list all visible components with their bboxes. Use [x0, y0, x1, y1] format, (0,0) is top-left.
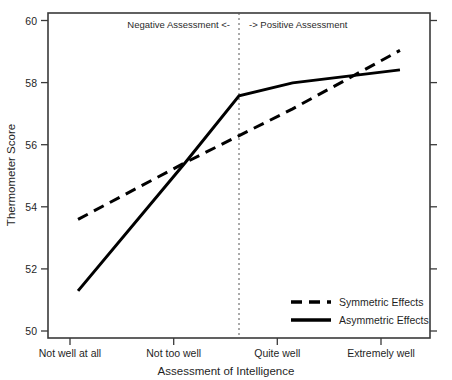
x-tick-label-2: Quite well	[254, 347, 300, 359]
x-axis-title: Assessment of Intelligence	[158, 365, 295, 377]
x-axis-category-labels: Not well at all Not too well Quite well …	[39, 347, 415, 359]
y-axis-ticks-left	[41, 21, 48, 332]
y-tick-label-60: 60	[25, 15, 37, 27]
x-tick-label-0: Not well at all	[39, 347, 101, 359]
y-axis-tick-labels: 60 58 56 54 52 50	[25, 15, 37, 338]
line-chart-canvas: 60 58 56 54 52 50 Thermometer Score Not …	[0, 0, 452, 380]
negative-assessment-label: Negative Assessment <-	[127, 19, 230, 30]
y-tick-label-58: 58	[25, 77, 37, 89]
y-tick-label-56: 56	[25, 139, 37, 151]
chart-figure: 60 58 56 54 52 50 Thermometer Score Not …	[0, 0, 452, 380]
y-tick-label-52: 52	[25, 263, 37, 275]
positive-assessment-label: -> Positive Assessment	[249, 19, 348, 30]
x-tick-label-3: Extremely well	[347, 347, 415, 359]
legend-label-symmetric: Symmetric Effects	[339, 296, 423, 308]
chart-legend: Symmetric Effects Asymmetric Effects	[291, 296, 429, 326]
y-axis-title: Thermometer Score	[5, 124, 17, 226]
x-tick-label-1: Not too well	[146, 347, 201, 359]
y-axis-ticks-right	[430, 21, 437, 332]
y-tick-label-50: 50	[25, 325, 37, 337]
y-tick-label-54: 54	[25, 201, 37, 213]
legend-label-asymmetric: Asymmetric Effects	[339, 314, 429, 326]
x-axis-ticks	[70, 338, 381, 345]
